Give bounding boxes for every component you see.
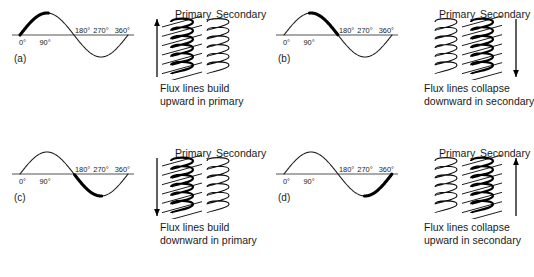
- sine-waveform: 0°90°180°270°360°(a): [8, 10, 138, 76]
- secondary-label: Secondary: [216, 8, 266, 20]
- secondary-winding: [207, 158, 229, 213]
- axis-label-360: 360°: [379, 165, 394, 174]
- flux-direction-arrow: [154, 19, 160, 77]
- primary-label: Primary: [439, 8, 475, 20]
- sine-waveform: 0°90°180°270°360°(d): [272, 149, 402, 215]
- panel-d: 0°90°180°270°360°(d)PrimarySecondaryFlux…: [264, 139, 528, 277]
- primary-label: Primary: [175, 147, 211, 159]
- primary-label: Primary: [175, 8, 211, 20]
- secondary-winding: [207, 19, 229, 74]
- primary-winding: [435, 19, 457, 74]
- highlighted-segment: [20, 13, 48, 35]
- caption-line-1: Flux lines build: [160, 221, 257, 234]
- sine-waveform: 0°90°180°270°360°(b): [272, 10, 402, 76]
- caption-line-1: Flux lines build: [160, 82, 243, 95]
- axis-label-0: 0°: [19, 38, 26, 47]
- secondary-label: Secondary: [480, 147, 530, 159]
- axis-label-180: 180°: [339, 165, 354, 174]
- primary-label: Primary: [439, 147, 475, 159]
- caption-line-2: downward in secondary: [424, 95, 534, 108]
- axis-label-270: 270°: [357, 165, 372, 174]
- caption-line-1: Flux lines collapse: [424, 221, 521, 234]
- axis-label-90: 90°: [39, 177, 50, 186]
- panel-tag: (a): [14, 53, 26, 64]
- flux-direction-arrow: [513, 19, 519, 77]
- primary-winding: [435, 158, 457, 213]
- axis-label-270: 270°: [93, 165, 108, 174]
- axis-label-0: 0°: [19, 177, 26, 186]
- highlighted-segment: [310, 13, 338, 35]
- axis-label-360: 360°: [379, 26, 394, 35]
- highlighted-segment: [364, 174, 391, 196]
- panel-caption: Flux lines collapsedownward in secondary: [424, 82, 534, 107]
- axis-label-90: 90°: [303, 38, 314, 47]
- axis-label-270: 270°: [357, 26, 372, 35]
- sine-waveform: 0°90°180°270°360°(c): [8, 149, 138, 215]
- axis-label-360: 360°: [115, 165, 130, 174]
- axis-label-180: 180°: [75, 26, 90, 35]
- panel-tag: (b): [278, 53, 290, 64]
- axis-label-360: 360°: [115, 26, 130, 35]
- panel-tag: (d): [278, 192, 290, 203]
- axis-label-180: 180°: [75, 165, 90, 174]
- panel-b: 0°90°180°270°360°(b)PrimarySecondaryFlux…: [264, 0, 528, 138]
- axis-label-0: 0°: [283, 38, 290, 47]
- axis-label-270: 270°: [93, 26, 108, 35]
- flux-direction-arrow: [154, 158, 160, 216]
- panel-caption: Flux lines buildupward in primary: [160, 82, 243, 107]
- caption-line-2: upward in primary: [160, 95, 243, 108]
- secondary-label: Secondary: [480, 8, 530, 20]
- panel-a: 0°90°180°270°360°(a)PrimarySecondaryFlux…: [0, 0, 264, 138]
- panel-tag: (c): [14, 192, 26, 203]
- caption-line-2: upward in secondary: [424, 234, 521, 247]
- axis-label-180: 180°: [339, 26, 354, 35]
- panel-c: 0°90°180°270°360°(c)PrimarySecondaryFlux…: [0, 139, 264, 277]
- caption-line-2: downward in primary: [160, 234, 257, 247]
- secondary-label: Secondary: [216, 147, 266, 159]
- axis-label-90: 90°: [303, 177, 314, 186]
- panel-caption: Flux lines collapseupward in secondary: [424, 221, 521, 246]
- axis-label-90: 90°: [39, 38, 50, 47]
- highlighted-segment: [75, 175, 102, 196]
- panel-caption: Flux lines builddownward in primary: [160, 221, 257, 246]
- caption-line-1: Flux lines collapse: [424, 82, 534, 95]
- flux-direction-arrow: [513, 158, 519, 216]
- axis-label-0: 0°: [283, 177, 290, 186]
